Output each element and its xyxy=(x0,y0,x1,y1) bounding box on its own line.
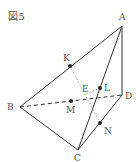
point-l-label: L xyxy=(104,83,110,93)
point-l-marker xyxy=(98,86,102,90)
point-k-label: K xyxy=(63,53,70,63)
vertex-d-label: D xyxy=(125,91,132,101)
point-e-label: E xyxy=(82,84,89,94)
point-k-marker xyxy=(68,64,72,68)
vertex-b-label: B xyxy=(7,102,14,112)
point-n-label: N xyxy=(104,126,112,136)
point-m-label: M xyxy=(66,105,75,115)
geometry-figure: 図5 A B C D K L M N E xyxy=(0,0,136,162)
vertex-c-label: C xyxy=(74,153,81,162)
point-n-marker xyxy=(98,121,102,125)
point-m-marker xyxy=(69,99,73,103)
vertex-a-label: A xyxy=(118,12,126,22)
tetrahedron-diagram: A B C D K L M N E xyxy=(0,0,136,162)
